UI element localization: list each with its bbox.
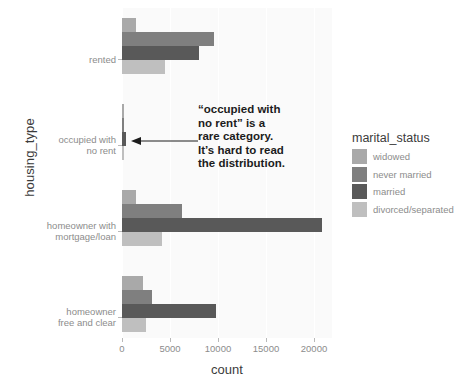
- legend-label: never married: [373, 169, 432, 180]
- legend-label: married: [373, 186, 405, 197]
- annotation-arrow-icon: [120, 126, 210, 156]
- annotation-line: “occupied with: [198, 103, 308, 117]
- y-tick-label-line: homeowner with: [0, 220, 116, 231]
- gridline-x: [218, 8, 219, 338]
- bar-homeowner-free-divorced-separated: [122, 318, 146, 332]
- y-tick-label-homeowner-mortgage: homeowner with mortgage/loan: [0, 220, 116, 242]
- y-tick-label-occupied-no-rent: occupied with no rent: [0, 134, 116, 156]
- x-tick: [218, 338, 219, 342]
- x-tick: [122, 338, 123, 342]
- y-tick-label-line: no rent: [0, 145, 116, 156]
- gridline-x: [314, 8, 315, 338]
- bar-homeowner-mortgage-widowed: [122, 190, 136, 204]
- bar-homeowner-free-married: [122, 304, 216, 318]
- x-tick: [314, 338, 315, 342]
- y-axis-title: housing_type: [22, 93, 37, 223]
- bar-homeowner-free-widowed: [122, 276, 143, 290]
- legend-item-widowed[interactable]: widowed: [352, 149, 460, 164]
- y-tick-label-line: homeowner: [0, 306, 116, 317]
- legend-swatch-never-married: [352, 167, 367, 182]
- bar-homeowner-mortgage-divorced-separated: [122, 232, 162, 246]
- legend-swatch-widowed: [352, 149, 367, 164]
- annotation-line: rare category.: [198, 130, 308, 144]
- y-tick-label-homeowner-free: homeowner free and clear: [0, 306, 116, 328]
- y-tick-label-line: mortgage/loan: [0, 231, 116, 242]
- y-tick-label-rented: rented: [0, 54, 116, 65]
- y-tick-label-line: occupied with: [0, 134, 116, 145]
- annotation-line: It’s hard to read: [198, 144, 308, 158]
- bar-rented-widowed: [122, 18, 136, 32]
- legend-item-divorced-separated[interactable]: divorced/separated: [352, 202, 460, 217]
- y-tick-homeowner-mortgage: [118, 231, 122, 232]
- legend: marital_status widowed never married mar…: [352, 131, 460, 219]
- bar-homeowner-free-never-married: [122, 290, 152, 304]
- y-tick-homeowner-free: [118, 317, 122, 318]
- legend-swatch-married: [352, 184, 367, 199]
- y-tick-label-line: rented: [0, 54, 116, 65]
- legend-item-never-married[interactable]: never married: [352, 167, 460, 182]
- bar-occupied-no-rent-widowed: [122, 104, 124, 118]
- bar-rented-divorced-separated: [122, 60, 165, 74]
- legend-label: widowed: [373, 151, 410, 162]
- legend-swatch-divorced-separated: [352, 202, 367, 217]
- legend-item-married[interactable]: married: [352, 184, 460, 199]
- x-axis-title: count: [122, 362, 332, 377]
- annotation-line: the distribution.: [198, 157, 308, 171]
- x-tick: [266, 338, 267, 342]
- chart-annotation: “occupied with no rent” is a rare catego…: [198, 103, 308, 171]
- bar-rented-never-married: [122, 32, 214, 46]
- bar-homeowner-mortgage-never-married: [122, 204, 182, 218]
- x-tick-label: 20000: [289, 343, 339, 354]
- x-tick-label: 5000: [145, 343, 195, 354]
- x-tick-label: 0: [97, 343, 147, 354]
- bar-rented-married: [122, 46, 199, 60]
- gridline-x: [266, 8, 267, 338]
- legend-title: marital_status: [352, 131, 460, 145]
- x-tick: [170, 338, 171, 342]
- plot-panel: [122, 8, 332, 338]
- x-tick-label: 10000: [193, 343, 243, 354]
- legend-label: divorced/separated: [373, 204, 454, 215]
- y-tick-label-line: free and clear: [0, 317, 116, 328]
- y-tick-rented: [118, 59, 122, 60]
- annotation-line: no rent” is a: [198, 117, 308, 131]
- bar-homeowner-mortgage-married: [122, 218, 322, 232]
- x-tick-label: 15000: [241, 343, 291, 354]
- bar-chart-figure: housing_type rented occu: [0, 0, 463, 388]
